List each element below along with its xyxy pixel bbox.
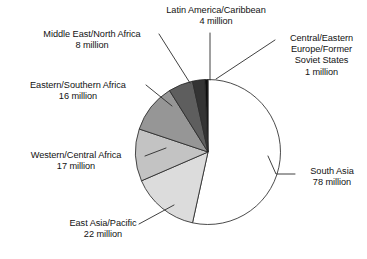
label-line-1: Latin America/Caribbean [146,5,286,16]
slice-label-south-asia: South Asia 78 million [297,166,367,188]
label-line-2: 4 million [146,16,286,27]
slice-label-east-asia-pacific: East Asia/Pacific 22 million [36,218,170,240]
label-line-1: South Asia [297,166,367,177]
slice-label-latin-america-caribbean: Latin America/Caribbean 4 million [146,5,286,27]
label-line-4: 1 million [276,67,367,78]
label-line-2: 8 million [25,40,159,51]
label-line-3: Soviet States [276,55,367,66]
leader-line-middle-east-north-africa [159,34,190,83]
label-line-1: Central/Eastern [276,33,367,44]
label-line-2: 78 million [297,177,367,188]
slice-label-western-central-africa: Western/Central Africa 17 million [4,150,148,172]
label-line-1: Middle East/North Africa [25,29,159,40]
label-line-2: Europe/Former [276,44,367,55]
label-line-1: East Asia/Pacific [36,218,170,229]
label-line-1: Western/Central Africa [4,150,148,161]
slice-label-eastern-southern-africa: Eastern/Southern Africa 16 million [8,80,148,102]
label-line-2: 16 million [8,91,148,102]
label-line-2: 22 million [36,229,170,240]
pie-chart-figure: South Asia — 78 millionEast Asia/Pacific… [0,0,367,259]
label-line-2: 17 million [4,161,148,172]
slice-label-middle-east-north-africa: Middle East/North Africa 8 million [25,29,159,51]
label-line-1: Eastern/Southern Africa [8,80,148,91]
slice-label-central-eastern-europe: Central/Eastern Europe/Former Soviet Sta… [276,33,367,78]
pie-slices-group: South Asia — 78 millionEast Asia/Pacific… [135,80,280,225]
leader-line-central-eastern-europe [216,40,275,79]
